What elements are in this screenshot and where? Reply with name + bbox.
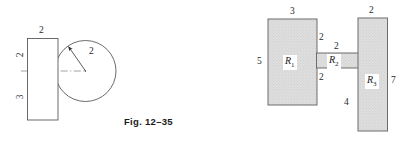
region-r2-left-dimension: 2 bbox=[319, 33, 324, 43]
left-rect-lower-left-dimension: 3 bbox=[16, 94, 26, 99]
region-r1-subscript: 1 bbox=[291, 61, 295, 69]
region-r3-subscript: 3 bbox=[373, 80, 377, 88]
circle-radius-dimension: 2 bbox=[89, 47, 94, 57]
figure-caption: Fig. 12–35 bbox=[124, 116, 173, 127]
left-rectangle-shape bbox=[28, 39, 59, 121]
region-r1-top-dimension: 3 bbox=[290, 7, 295, 17]
region-r3-label: R3 bbox=[365, 74, 379, 89]
figure-vector-layer bbox=[0, 0, 409, 146]
circle-center-dot bbox=[85, 70, 86, 71]
region-r3-top-dimension: 2 bbox=[369, 6, 374, 16]
left-rect-top-dimension: 2 bbox=[39, 26, 44, 36]
region-r1-left-dimension: 5 bbox=[257, 57, 262, 67]
region-r1-label: R1 bbox=[283, 55, 297, 70]
region-r2-label: R2 bbox=[327, 54, 341, 69]
radius-arrow bbox=[69, 47, 86, 72]
region-r2-bottom-dimension: 2 bbox=[319, 73, 324, 83]
region-r2-subscript: 2 bbox=[335, 60, 339, 68]
region-r3-left-dimension: 4 bbox=[344, 98, 349, 108]
region-r3-right-dimension: 7 bbox=[391, 76, 396, 86]
figure-12-35: 2 2 3 2 Fig. 12–35 3 5 R1 2 2 2 R2 2 7 4… bbox=[0, 0, 409, 146]
left-rect-upper-left-dimension: 2 bbox=[16, 52, 26, 57]
region-r2-top-dimension: 2 bbox=[334, 42, 339, 52]
left-diagram-group bbox=[21, 39, 116, 121]
